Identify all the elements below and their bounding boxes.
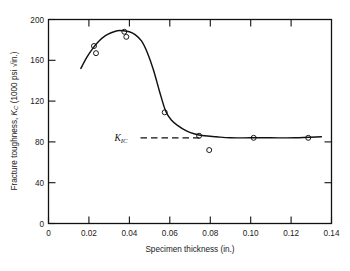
x-tick-label-014: 0.14 [324, 229, 340, 238]
x-tick-label-002: 0.02 [81, 229, 97, 238]
x-tick-label-004: 0.04 [121, 229, 137, 238]
x-tick-label-012: 0.12 [283, 229, 299, 238]
x-tick-labels: 0 0.02 0.04 0.06 0.08 0.10 0.12 0.14 [46, 229, 340, 238]
y-axis-title-units: (1000 psi √in.) [10, 51, 19, 105]
y-tick-label-80: 80 [35, 138, 45, 147]
k-ic-reference-line: KIC [113, 133, 201, 144]
data-point-markers [91, 29, 310, 152]
y-tick-labels: 0 40 80 120 160 200 [30, 16, 44, 229]
x-tick-label-008: 0.08 [202, 229, 218, 238]
x-tick-label-0: 0 [46, 229, 51, 238]
x-axis-title: Specimen thickness (in.) [145, 245, 234, 254]
y-tick-label-200: 200 [30, 16, 44, 25]
y-tick-label-40: 40 [35, 179, 45, 188]
svg-text:Fracture toughness, KC (1000 p: Fracture toughness, KC (1000 psi √in.) [10, 51, 19, 190]
data-point-marker [124, 34, 129, 39]
y-tick-label-160: 160 [30, 56, 44, 65]
y-axis-title: Fracture toughness, KC (1000 psi √in.) [10, 51, 19, 190]
data-point-marker [207, 148, 212, 153]
x-tick-label-006: 0.06 [162, 229, 178, 238]
y-tick-label-120: 120 [30, 97, 44, 106]
figure-container: 0 40 80 120 160 200 0 0.02 [0, 0, 350, 271]
fitted-curve [81, 31, 322, 138]
x-tick-label-010: 0.10 [243, 229, 259, 238]
data-point-marker [94, 51, 99, 56]
fracture-toughness-chart: 0 40 80 120 160 200 0 0.02 [0, 0, 350, 271]
y-tick-label-0: 0 [39, 220, 44, 229]
y-axis-title-main: Fracture toughness, [10, 115, 19, 190]
k-ic-label-subscript: IC [120, 137, 128, 144]
k-ic-label: KIC [113, 133, 128, 144]
